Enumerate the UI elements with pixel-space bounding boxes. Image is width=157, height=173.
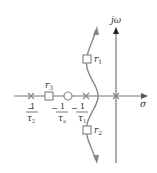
imag-axis [113, 27, 119, 163]
r3-label: r3 [45, 80, 53, 91]
arrow-up-icon [93, 26, 99, 35]
r1-marker-icon [83, 55, 91, 63]
r2-label: r2 [94, 125, 102, 136]
r3-marker-icon [45, 92, 53, 100]
svg-text:1: 1 [30, 102, 35, 111]
r1-label: r1 [94, 54, 102, 65]
svg-text:τ1: τ1 [78, 113, 86, 124]
imag-axis-label: jω [109, 15, 122, 25]
root-locus-svg: jω σ r1 r2 r3 − 1 τ2 − 1 τa − 1 τ1 [0, 0, 157, 173]
real-axis-label: σ [140, 99, 147, 109]
locus-curve [86, 30, 98, 160]
r2-marker-icon [83, 126, 91, 134]
svg-text:τ2: τ2 [27, 113, 35, 124]
tick-taua: − 1 τa [51, 102, 68, 124]
zero-taua-icon [64, 92, 72, 100]
real-axis [14, 93, 148, 99]
root-locus-diagram: jω σ r1 r2 r3 − 1 τ2 − 1 τa − 1 τ1 [0, 0, 157, 173]
tick-tau1: − 1 τ1 [71, 102, 88, 124]
svg-text:τa: τa [58, 113, 66, 124]
arrow-down-icon [93, 155, 99, 164]
svg-text:1: 1 [80, 102, 85, 111]
svg-text:1: 1 [60, 102, 65, 111]
tick-tau2: − 1 τ2 [26, 102, 38, 124]
